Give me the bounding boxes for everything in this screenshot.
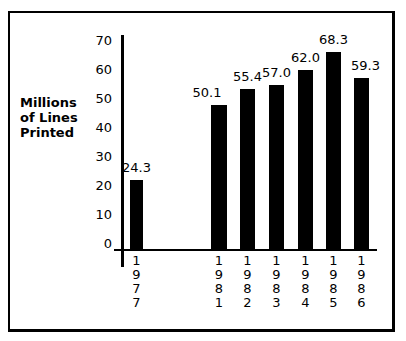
y-tick-label: 60 xyxy=(82,63,112,77)
y-tick-label: 70 xyxy=(82,34,112,48)
bar-value-label: 62.0 xyxy=(286,51,326,65)
y-axis-label: Millions of Lines Printed xyxy=(20,95,78,140)
chart-title-cropped xyxy=(0,0,406,3)
bar-1983 xyxy=(269,85,284,250)
x-tick-label-1982: 1 9 8 2 xyxy=(240,254,256,310)
y-axis-line xyxy=(121,35,124,267)
y-tick-label: 30 xyxy=(82,150,112,164)
bar-value-label: 68.3 xyxy=(314,33,354,47)
y-tick-label: 10 xyxy=(82,208,112,222)
bar-1977 xyxy=(130,180,143,250)
y-tick-label: 20 xyxy=(82,179,112,193)
bar-value-label: 24.3 xyxy=(117,161,157,175)
bar-1986 xyxy=(354,78,369,250)
x-tick-label-1981: 1 9 8 1 xyxy=(211,254,227,310)
y-tick-label: 40 xyxy=(82,121,112,135)
bar-1985 xyxy=(326,52,341,250)
bar-1984 xyxy=(298,70,313,250)
bar-value-label: 57.0 xyxy=(257,66,297,80)
x-tick-label-1985: 1 9 8 5 xyxy=(326,254,342,310)
bar-value-label: 50.1 xyxy=(187,86,227,100)
y-tick-label: 0 xyxy=(82,237,112,251)
x-tick-label-1986: 1 9 8 6 xyxy=(354,254,370,310)
y-tick-label: 50 xyxy=(82,92,112,106)
bar-1982 xyxy=(240,89,255,250)
x-tick-label-1977: 1 9 7 7 xyxy=(129,254,145,310)
x-tick-label-1984: 1 9 8 4 xyxy=(298,254,314,310)
bar-value-label: 59.3 xyxy=(346,59,386,73)
bar-1981 xyxy=(211,105,227,250)
x-tick-label-1983: 1 9 8 3 xyxy=(269,254,285,310)
